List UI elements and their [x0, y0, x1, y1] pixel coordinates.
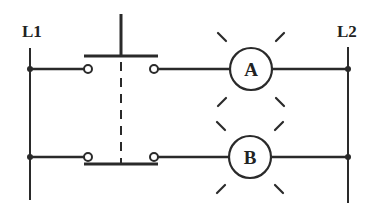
pushbutton-switch [84, 14, 158, 164]
rail-l1 [27, 48, 33, 200]
rail-label-l2: L2 [337, 22, 357, 41]
rail-l2 [345, 47, 351, 203]
lamp-b-label: B [244, 147, 257, 168]
contact-terminal [84, 153, 92, 161]
lamp-a-label: A [244, 59, 258, 80]
rail-label-l1: L1 [22, 22, 42, 41]
rung-1 [30, 65, 348, 73]
contact-terminal [150, 65, 158, 73]
contact-terminal [150, 153, 158, 161]
ladder-diagram: L1 L2 A [0, 0, 375, 214]
contact-terminal [84, 65, 92, 73]
rung-2 [30, 153, 348, 161]
